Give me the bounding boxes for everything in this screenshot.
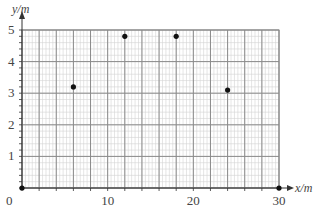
y-tick-label: 3 [8, 86, 15, 99]
data-point [225, 87, 230, 92]
x-axis-title: x/m [295, 182, 312, 194]
y-tick-label: 1 [8, 149, 15, 162]
data-point [71, 84, 76, 89]
data-point [276, 185, 281, 190]
x-tick-label: 20 [187, 194, 200, 207]
minor-grid [22, 30, 279, 188]
axes [19, 11, 294, 191]
data-point [174, 34, 179, 39]
y-tick-label: 5 [8, 23, 15, 36]
data-point [19, 185, 24, 190]
scatter-chart [0, 0, 321, 210]
y-axis-title: y/m [12, 3, 29, 15]
x-tick-label: 30 [273, 194, 286, 207]
x-tick-label: 0 [6, 194, 13, 207]
major-grid [22, 30, 279, 188]
y-tick-label: 4 [8, 55, 15, 68]
y-tick-label: 2 [8, 118, 15, 131]
data-point [122, 34, 127, 39]
x-tick-label: 10 [101, 194, 114, 207]
